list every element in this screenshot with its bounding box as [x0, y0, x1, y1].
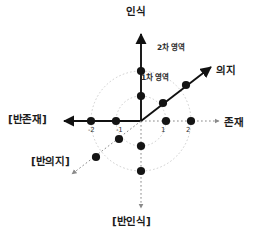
axis-label-existence: 존재 [224, 117, 244, 128]
axis-label-anti-will: [반의지] [31, 156, 70, 167]
data-point [159, 99, 167, 107]
data-point [182, 81, 190, 89]
axis-line-will-negative [72, 121, 141, 174]
data-point [187, 117, 195, 125]
axis-label-anti-perception: [반인식] [112, 216, 151, 227]
tick-label-minus-two: -2 [88, 127, 95, 134]
axis-label-perception: 인식 [126, 6, 146, 17]
coordinate-diagram: 인식 [반인식] 존재 [반존재] 의지 [반의지] 2차 영역 1차 영역 -… [0, 0, 257, 238]
data-point [137, 167, 145, 175]
region-label-1: 1차 영역 [141, 74, 169, 82]
axis-label-will: 의지 [216, 65, 236, 76]
tick-label-plus-one: 1 [161, 127, 165, 134]
data-point [137, 92, 145, 100]
data-point [112, 117, 120, 125]
data-point [162, 117, 170, 125]
tick-label-minus-one: -1 [116, 127, 123, 134]
data-point [115, 135, 123, 143]
axis-label-anti-existence: [반존재] [8, 114, 47, 125]
data-point [92, 153, 100, 161]
tick-label-plus-two: 2 [186, 127, 190, 134]
data-point [87, 117, 95, 125]
region-label-2: 2차 영역 [157, 44, 185, 52]
data-point [137, 142, 145, 150]
